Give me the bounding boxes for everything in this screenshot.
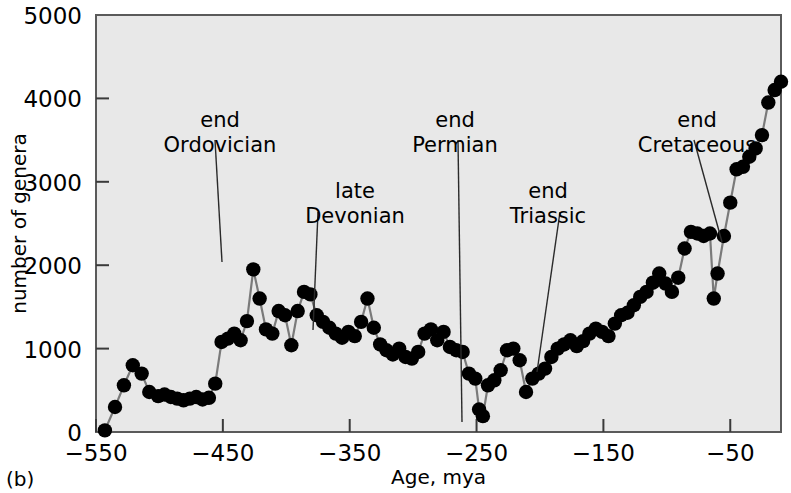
data-point bbox=[703, 226, 717, 240]
data-point bbox=[755, 128, 769, 142]
data-point bbox=[710, 266, 724, 280]
data-point bbox=[117, 378, 131, 392]
data-point bbox=[519, 385, 533, 399]
x-axis-title: Age, mya bbox=[391, 465, 486, 489]
plot-area bbox=[96, 15, 781, 432]
data-point bbox=[202, 391, 216, 405]
data-point bbox=[455, 345, 469, 359]
data-point bbox=[278, 308, 292, 322]
panel-label: (b) bbox=[6, 467, 34, 491]
data-point bbox=[665, 285, 679, 299]
data-point bbox=[348, 329, 362, 343]
data-point bbox=[476, 409, 490, 423]
x-tick-label: −50 bbox=[706, 440, 755, 466]
diversity-chart: −550−450−350−250−150−5001000200030004000… bbox=[0, 0, 791, 493]
data-point bbox=[252, 291, 266, 305]
data-point bbox=[284, 338, 298, 352]
data-point bbox=[98, 423, 112, 437]
x-tick-label: −150 bbox=[572, 440, 635, 466]
data-point bbox=[265, 326, 279, 340]
data-point bbox=[677, 241, 691, 255]
data-point bbox=[134, 366, 148, 380]
y-tick-label: 5000 bbox=[23, 3, 82, 29]
data-point bbox=[707, 291, 721, 305]
data-point bbox=[468, 371, 482, 385]
data-point bbox=[601, 329, 615, 343]
data-point bbox=[354, 315, 368, 329]
data-point bbox=[761, 95, 775, 109]
x-tick-label: −250 bbox=[445, 440, 508, 466]
data-point bbox=[360, 291, 374, 305]
data-point bbox=[512, 353, 526, 367]
data-point bbox=[240, 314, 254, 328]
data-point bbox=[436, 325, 450, 339]
data-point bbox=[367, 321, 381, 335]
data-point bbox=[108, 400, 122, 414]
y-tick-label: 1000 bbox=[23, 337, 82, 363]
y-axis-title: number of genera bbox=[7, 133, 31, 314]
plot-background bbox=[96, 15, 781, 432]
data-point bbox=[208, 376, 222, 390]
figure-panel: −550−450−350−250−150−5001000200030004000… bbox=[0, 0, 791, 493]
y-tick-label: 2000 bbox=[23, 253, 82, 279]
x-tick-label: −350 bbox=[318, 440, 381, 466]
data-point bbox=[723, 195, 737, 209]
x-tick-label: −450 bbox=[191, 440, 254, 466]
y-tick-label: 3000 bbox=[23, 170, 82, 196]
data-point bbox=[411, 345, 425, 359]
data-point bbox=[493, 363, 507, 377]
y-tick-label: 4000 bbox=[23, 86, 82, 112]
data-point bbox=[671, 271, 685, 285]
data-point bbox=[233, 333, 247, 347]
data-point bbox=[774, 75, 788, 89]
data-point bbox=[290, 304, 304, 318]
data-point bbox=[246, 262, 260, 276]
y-tick-label: 0 bbox=[67, 420, 82, 446]
